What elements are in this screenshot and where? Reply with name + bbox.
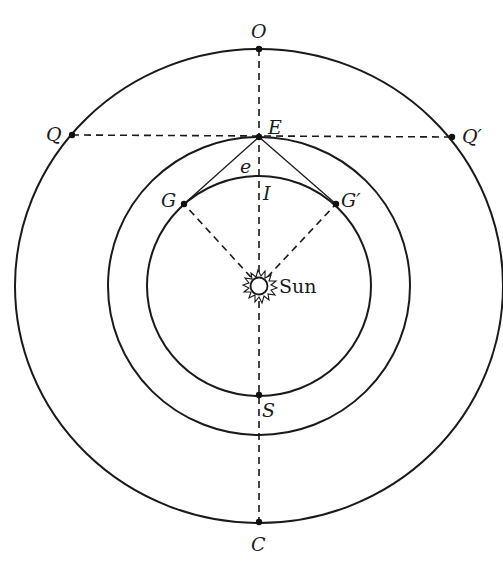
label-sun: Sun [279,275,317,297]
orbit-diagram: O Q Q′ E e I G G′ Sun S C [0,0,503,566]
sun-g-line [184,204,259,286]
point-e [256,134,262,140]
label-q-prime: Q′ [462,125,483,147]
label-g-prime: G′ [341,189,361,211]
e-g-prime-line [259,137,336,204]
label-s: S [262,399,275,421]
sun-g-prime-line [259,204,336,286]
point-s [256,392,262,398]
label-o: O [251,20,267,42]
label-g: G [161,189,176,211]
label-q: Q [46,123,62,145]
label-c: C [251,533,266,555]
point-q [69,132,75,138]
label-e: E [267,116,282,138]
point-o [256,46,262,52]
point-g-prime [333,201,339,207]
label-e-angle: e [240,155,251,177]
point-g [181,201,187,207]
point-q-prime [449,134,455,140]
point-c [256,519,262,525]
label-i: I [262,182,271,204]
